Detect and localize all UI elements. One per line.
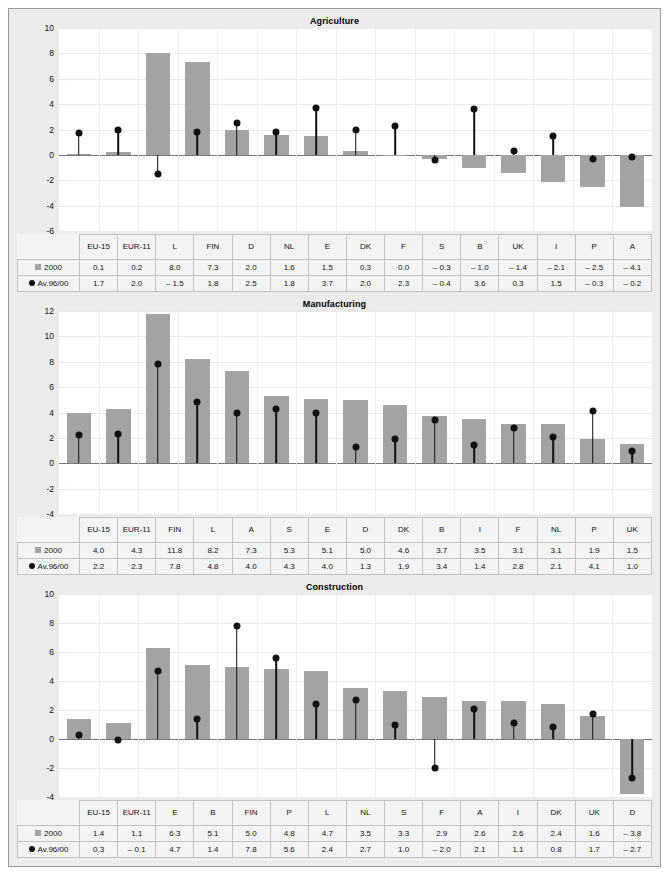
table-cell: 2.2: [80, 559, 118, 575]
marker-dot-dk: [352, 126, 359, 133]
table-cell: 7.3: [194, 260, 232, 276]
marker-stem-nl: [355, 700, 357, 739]
column-header-e: E: [308, 235, 346, 260]
column-header-s: S: [385, 801, 423, 826]
column-header-f: F: [423, 801, 461, 826]
plot-area-manufacturing: 121086420-2-4: [17, 311, 652, 514]
table-cell: 1.8: [194, 276, 232, 292]
table-cell: 3.5: [346, 826, 384, 842]
table-cell: 2.4: [537, 826, 575, 842]
legend-swatch-square-icon: [35, 264, 41, 270]
column-header-a: A: [613, 235, 651, 260]
marker-dot-p: [589, 408, 596, 415]
table-row-2000: 20004.04.311.88.27.35.35.15.04.63.73.53.…: [18, 543, 652, 559]
legend-swatch-dot-icon: [29, 280, 35, 286]
y-tick-label: -4: [46, 510, 54, 519]
table-corner-cell: [18, 801, 80, 826]
category-divider: [217, 28, 218, 231]
marker-stem-dk: [394, 439, 396, 463]
marker-stem-f: [394, 126, 396, 155]
category-divider: [296, 28, 297, 231]
table-cell: 3.5: [461, 543, 499, 559]
y-tick-label: -2: [46, 764, 54, 773]
marker-stem-p: [592, 411, 594, 463]
column-header-fin: FIN: [156, 518, 194, 543]
data-table-manufacturing: EU-15EUR-11FINLASEDDKBIFNLPUK20004.04.31…: [17, 517, 652, 575]
marker-stem-a: [236, 413, 238, 464]
column-header-nl: NL: [346, 801, 384, 826]
table-cell: 2.5: [232, 276, 270, 292]
marker-dot-eu-15: [75, 432, 82, 439]
table-cell: 2.4: [308, 842, 346, 858]
marker-stem-p: [276, 658, 278, 739]
marker-dot-dk: [392, 436, 399, 443]
table-cell: 1.5: [308, 260, 346, 276]
category-divider: [415, 28, 416, 231]
table-row-av-96-00: Av.96/002.22.37.84.84.04.34.01.31.93.41.…: [18, 559, 652, 575]
table-cell: – 0.1: [118, 842, 156, 858]
plot-area-agriculture: 1086420-2-4-6: [17, 28, 652, 231]
table-cell: 2.3: [385, 276, 423, 292]
table-cell: – 0.2: [613, 276, 651, 292]
column-header-fin: FIN: [194, 235, 232, 260]
y-tick-label: 2: [49, 433, 54, 442]
marker-stem-d: [236, 123, 238, 155]
category-divider: [257, 311, 258, 514]
legend-cell-av-96-00: Av.96/00: [18, 559, 80, 575]
y-tick-label: 4: [49, 408, 54, 417]
y-tick-label: 2: [49, 706, 54, 715]
table-cell: – 2.0: [423, 842, 461, 858]
marker-dot-eu-15: [75, 130, 82, 137]
table-cell: 3.4: [423, 559, 461, 575]
legend-label-2000: 2000: [44, 829, 62, 838]
marker-dot-d: [352, 443, 359, 450]
table-cell: 2.9: [423, 826, 461, 842]
marker-dot-eur-11: [115, 126, 122, 133]
plot-canvas-manufacturing: [59, 311, 652, 514]
table-cell: 2.1: [461, 842, 499, 858]
table-cell: 1.9: [385, 559, 423, 575]
table-cell: 3.1: [499, 543, 537, 559]
column-header-i: I: [461, 518, 499, 543]
table-cell: 0.3: [499, 276, 537, 292]
marker-dot-fin: [194, 129, 201, 136]
bar-f: [422, 697, 447, 739]
marker-dot-uk: [589, 711, 596, 718]
y-tick-label: 4: [49, 677, 54, 686]
y-tick-label: 6: [49, 383, 54, 392]
category-divider: [454, 594, 455, 797]
column-header-f: F: [499, 518, 537, 543]
table-corner-cell: [18, 235, 80, 260]
column-header-eu-15: EU-15: [80, 801, 118, 826]
category-divider: [99, 28, 100, 231]
column-header-l: L: [156, 235, 194, 260]
data-table-construction: EU-15EUR-11EBFINPLNLSFAIDKUKD20001.41.16…: [17, 800, 652, 858]
table-cell: 1.4: [194, 842, 232, 858]
column-header-i: I: [537, 235, 575, 260]
column-header-dk: DK: [346, 235, 384, 260]
marker-stem-nl: [552, 437, 554, 464]
category-divider: [375, 594, 376, 797]
table-cell: – 0.3: [423, 260, 461, 276]
marker-stem-dk: [355, 130, 357, 155]
table-cell: – 1.5: [156, 276, 194, 292]
category-divider: [454, 28, 455, 231]
marker-stem-a: [473, 709, 475, 739]
table-cell: 3.7: [308, 276, 346, 292]
table-cell: 1.9: [575, 543, 613, 559]
zero-line: [59, 739, 652, 740]
table-cell: 2.6: [461, 826, 499, 842]
table-row-2000: 20000.10.28.07.32.01.61.50.30.0– 0.3– 1.…: [18, 260, 652, 276]
chart-title-construction: Construction: [17, 581, 652, 594]
y-tick-label: 2: [49, 125, 54, 134]
table-row-av-96-00: Av.96/000.3– 0.14.71.47.85.62.42.71.0– 2…: [18, 842, 652, 858]
table-cell: 1.6: [575, 826, 613, 842]
column-header-d: D: [613, 801, 651, 826]
marker-dot-e: [154, 667, 161, 674]
category-divider: [533, 28, 534, 231]
marker-stem-uk: [592, 714, 594, 739]
table-cell: 3.6: [461, 276, 499, 292]
marker-dot-s: [273, 405, 280, 412]
column-header-b: B: [423, 518, 461, 543]
marker-stem-b: [473, 109, 475, 155]
